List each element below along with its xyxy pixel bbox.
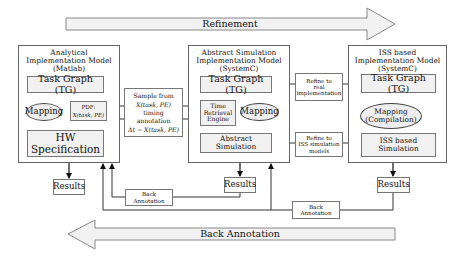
- abstract-results: Results: [224, 177, 256, 193]
- iss-task-graph: Task Graph (TG): [361, 74, 436, 93]
- analytical-model-title: Analytical Implementation Model (Matlab): [19, 47, 119, 75]
- refine-real-note: Refine to real implementation: [295, 73, 343, 101]
- diagram-canvas: Refinement Back Annotation Analytical Im…: [0, 0, 463, 262]
- pdf-box: PDF: X(task, PE): [70, 101, 107, 121]
- sample-note: Sample from X(task, PE) timing annotatio…: [124, 88, 183, 137]
- sample-line4: annotation: [125, 117, 182, 125]
- back-annotation-label: Back Annotation: [170, 227, 310, 241]
- back-annotation-note-left: Back Annotation: [125, 189, 173, 206]
- sample-line2: X(task, PE): [125, 101, 182, 109]
- sample-line1: Sample from: [125, 92, 182, 100]
- analytical-mapping: Mapping: [26, 103, 62, 121]
- abstract-mapping: Mapping: [240, 103, 279, 121]
- iss-simulation: ISS based Simulation: [361, 133, 436, 157]
- time-retrieval-engine: Time Retrieval Engine: [200, 100, 236, 126]
- hw-specification: HW Specification: [27, 130, 104, 157]
- refine-iss-note: Refine to ISS simulation models: [295, 132, 343, 157]
- back-annotation-note-right: Back Annotation: [292, 201, 340, 219]
- abstract-simulation: Abstract Simulation: [200, 133, 272, 153]
- refinement-label: Refinement: [180, 17, 280, 31]
- sample-line3: timing: [125, 109, 182, 117]
- pdf-formula: X(task, PE): [71, 111, 106, 120]
- analytical-task-graph: Task Graph (TG): [27, 76, 104, 93]
- iss-mapping-compilation: Mapping (Compilation): [360, 103, 422, 129]
- analytical-results: Results: [53, 179, 85, 195]
- pdf-label: PDF:: [71, 103, 106, 111]
- iss-model-title: ISS based Implementation Model (SystemC): [349, 47, 446, 75]
- iss-results: Results: [377, 177, 410, 193]
- sample-line5: Δt ∼ X(task, PE): [125, 126, 182, 134]
- abstract-sim-model-title: Abstract Simulation Implementation Model…: [189, 47, 289, 75]
- abstract-task-graph: Task Graph (TG): [200, 76, 272, 93]
